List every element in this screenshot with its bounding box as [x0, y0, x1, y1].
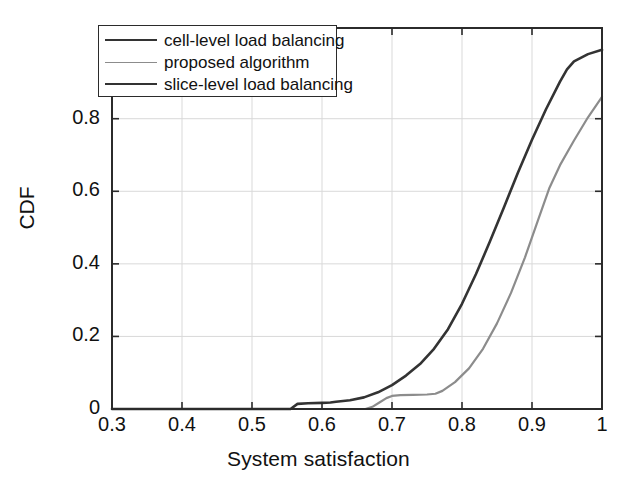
legend-line-swatch-icon	[105, 83, 157, 85]
legend-line-swatch-icon	[105, 62, 157, 63]
data-series-group	[112, 50, 602, 409]
x-tick-label-4: 0.7	[362, 413, 422, 436]
y-tick-label-1: 0.2	[40, 323, 100, 346]
x-tick-label-5: 0.8	[432, 413, 492, 436]
legend-line-swatch-icon	[105, 39, 157, 41]
legend-entry-1[interactable]: proposed algorithm	[99, 51, 336, 73]
legend-entry-label: slice-level load balancing	[164, 76, 353, 93]
y-tick-label-0: 0	[40, 396, 100, 419]
x-axis-label: System satisfaction	[0, 447, 637, 471]
legend-entry-2[interactable]: slice-level load balancing	[99, 73, 336, 95]
legend-entry-label: proposed algorithm	[164, 54, 310, 71]
series-line-0	[112, 50, 602, 409]
y-axis-label: CDF	[15, 163, 39, 253]
x-tick-label-7: 1	[572, 413, 632, 436]
y-tick-label-2: 0.4	[40, 251, 100, 274]
series-line-1	[112, 97, 602, 409]
x-tick-label-3: 0.6	[292, 413, 352, 436]
y-tick-label-4: 0.8	[40, 106, 100, 129]
x-tick-label-2: 0.5	[222, 413, 282, 436]
x-tick-label-6: 0.9	[502, 413, 562, 436]
cdf-chart-figure: 0.30.40.50.60.70.80.91 00.20.40.60.8 Sys…	[0, 0, 637, 490]
legend-entry-label: cell-level load balancing	[164, 32, 345, 49]
y-tick-label-3: 0.6	[40, 178, 100, 201]
chart-legend: cell-level load balancingproposed algori…	[98, 25, 337, 97]
x-tick-label-1: 0.4	[152, 413, 212, 436]
legend-entry-0[interactable]: cell-level load balancing	[99, 29, 336, 51]
